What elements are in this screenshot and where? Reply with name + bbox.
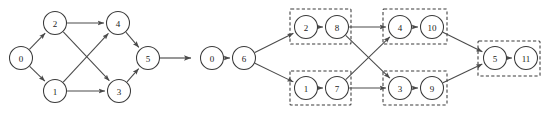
node-4[interactable]: 4 — [389, 16, 412, 39]
node-label-7: 7 — [335, 84, 340, 94]
edge-1-to-4 — [63, 33, 108, 82]
edge-6-to-2 — [255, 33, 294, 52]
figure-canvas: 021435 06281741039511 — [0, 0, 550, 120]
node-3[interactable]: 3 — [389, 77, 412, 100]
node-label-11: 11 — [522, 54, 531, 64]
edge-0-to-1 — [30, 66, 45, 81]
edge-6-to-1 — [255, 63, 293, 82]
node-label-2: 2 — [304, 23, 309, 33]
node-label-8: 8 — [335, 23, 340, 33]
node-0[interactable]: 0 — [201, 47, 224, 70]
node-label-4: 4 — [116, 19, 121, 29]
node-label-3: 3 — [117, 87, 122, 97]
node-2[interactable]: 2 — [295, 16, 318, 39]
node-label-5: 5 — [493, 54, 498, 64]
node-5[interactable]: 5 — [484, 47, 507, 70]
node-4[interactable]: 4 — [107, 12, 130, 35]
node-3[interactable]: 3 — [108, 80, 131, 103]
left-graph-nodes: 021435 — [10, 12, 160, 103]
node-6[interactable]: 6 — [233, 47, 256, 70]
node-label-4: 4 — [398, 23, 403, 33]
node-8[interactable]: 8 — [326, 16, 349, 39]
node-11[interactable]: 11 — [515, 47, 538, 70]
node-label-3: 3 — [398, 84, 403, 94]
node-label-0: 0 — [19, 54, 24, 64]
node-label-5: 5 — [146, 54, 151, 64]
node-5[interactable]: 5 — [137, 47, 160, 70]
edge-9-to-5 — [443, 64, 482, 83]
node-label-2: 2 — [53, 19, 58, 29]
node-label-10: 10 — [428, 23, 438, 33]
graph-figure: 021435 06281741039511 — [0, 0, 550, 120]
node-2[interactable]: 2 — [44, 12, 67, 35]
node-label-9: 9 — [430, 84, 435, 94]
edge-0-to-2 — [29, 33, 45, 49]
node-7[interactable]: 7 — [326, 77, 349, 100]
node-label-1: 1 — [53, 87, 58, 97]
right-graph-edges — [224, 27, 512, 88]
edge-3-to-5 — [127, 69, 139, 82]
node-9[interactable]: 9 — [421, 77, 444, 100]
node-label-6: 6 — [242, 54, 247, 64]
node-0[interactable]: 0 — [10, 47, 33, 70]
node-1[interactable]: 1 — [295, 77, 318, 100]
node-label-0: 0 — [210, 54, 215, 64]
node-1[interactable]: 1 — [44, 80, 67, 103]
node-10[interactable]: 10 — [421, 16, 444, 39]
edge-4-to-5 — [126, 32, 139, 47]
edge-10-to-5 — [443, 32, 482, 51]
node-label-1: 1 — [304, 84, 309, 94]
